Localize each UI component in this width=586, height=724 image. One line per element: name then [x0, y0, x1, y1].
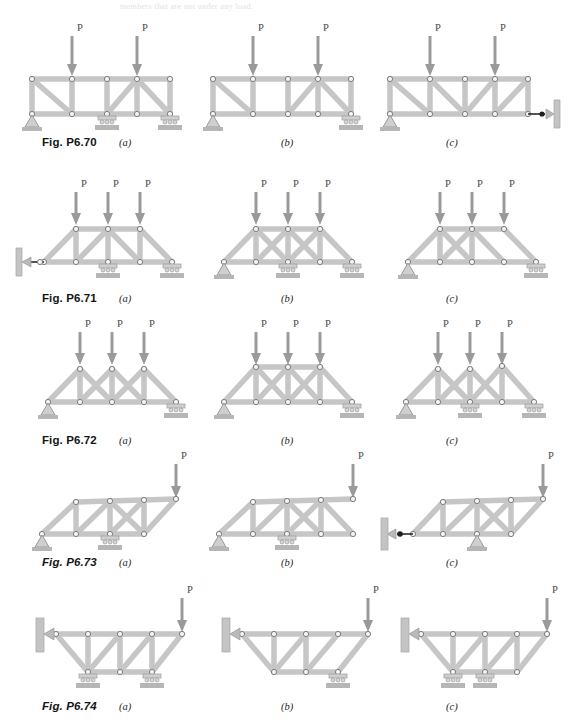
load-label: P: [507, 318, 513, 329]
support-roller: [98, 536, 122, 550]
panel-letter-a: (a): [119, 701, 131, 712]
load-arrow: [135, 192, 145, 225]
load-label: P: [113, 178, 119, 189]
load-arrow: [313, 36, 323, 76]
load-arrows: [71, 192, 145, 225]
panel-letter-a: (a): [119, 557, 131, 568]
truss-p6-72-a: P P P: [24, 326, 214, 426]
truss-members: [390, 79, 528, 114]
load-label: P: [475, 318, 481, 329]
load-arrow: [363, 598, 373, 632]
support-pin: [467, 535, 487, 551]
load-label: P: [552, 584, 558, 595]
truss-p6-73-b: P: [205, 462, 385, 557]
support-roller: [326, 674, 350, 688]
load-label: P: [373, 584, 379, 595]
truss-p6-73-a: P: [28, 462, 208, 557]
load-arrow: [283, 192, 293, 225]
panel-letter-c: (c): [446, 435, 458, 446]
support-roller: [158, 116, 182, 130]
truss-p6-70-c: P P: [382, 24, 572, 136]
truss-members: [408, 229, 536, 262]
panel-letter-c: (c): [446, 701, 458, 712]
load-label: P: [258, 22, 264, 33]
load-label: P: [445, 178, 451, 189]
support-roller: [164, 404, 188, 418]
support-roller: [276, 264, 300, 278]
figure-label-p6-73: Fig. P6.73: [42, 556, 97, 568]
load-arrows: [248, 36, 323, 76]
load-arrow: [71, 192, 81, 225]
support-roller: [160, 264, 184, 278]
panel-letter-b: (b): [281, 701, 293, 712]
load-arrow: [315, 332, 325, 365]
panel-letter-c: (c): [446, 293, 458, 304]
truss-p6-74-a: P: [22, 596, 212, 696]
support-pin: [209, 535, 229, 551]
panel-letter-b: (b): [281, 435, 293, 446]
support-wall: [36, 618, 54, 652]
support-wall: [222, 618, 240, 652]
support-pin: [22, 115, 42, 131]
truss-members: [224, 367, 352, 402]
load-arrow: [348, 464, 358, 498]
truss-p6-72-c: P P P: [382, 326, 572, 426]
panel-letter-a: (a): [119, 293, 131, 304]
load-label: P: [443, 318, 449, 329]
load-arrow: [75, 332, 85, 365]
support-pin: [214, 403, 234, 419]
truss-p6-72-b: P P P: [198, 326, 388, 426]
panel-letter-c: (c): [446, 557, 458, 568]
support-pin: [214, 263, 234, 279]
figure-label-p6-70: Fig. P6.70: [42, 136, 97, 148]
support-wall-link: [381, 518, 413, 550]
load-label: P: [500, 22, 506, 33]
panel-letter-b: (b): [281, 137, 293, 148]
support-pin: [32, 535, 52, 551]
load-arrow: [542, 598, 552, 632]
load-label: P: [477, 178, 483, 189]
support-roller: [458, 404, 482, 418]
load-arrow: [433, 332, 443, 365]
load-label: P: [435, 22, 441, 33]
support-pin: [398, 263, 418, 279]
truss-p6-73-c: P: [375, 462, 575, 557]
truss-members: [421, 634, 547, 672]
load-label: P: [145, 178, 151, 189]
load-arrows: [251, 192, 325, 225]
support-roller: [524, 264, 548, 278]
panel-letter-b: (b): [281, 557, 293, 568]
support-roller: [339, 116, 363, 130]
load-arrow: [67, 36, 77, 76]
load-label: P: [323, 22, 329, 33]
load-label: P: [85, 318, 91, 329]
load-arrow: [251, 332, 261, 365]
load-label: P: [261, 178, 267, 189]
truss-p6-74-b: P: [208, 596, 398, 696]
truss-p6-70-a: P P: [24, 24, 199, 136]
load-arrow: [139, 332, 149, 365]
load-label: P: [261, 318, 267, 329]
support-roller: [76, 674, 100, 688]
load-label: P: [358, 450, 364, 461]
support-pin: [380, 115, 400, 131]
support-roller: [441, 674, 465, 688]
load-arrow: [490, 36, 500, 76]
load-arrow: [467, 192, 477, 225]
load-label: P: [149, 318, 155, 329]
support-roller: [522, 404, 546, 418]
support-roller: [95, 116, 119, 130]
support-wall: [401, 618, 419, 652]
figure-label-p6-74: Fig. P6.74: [42, 700, 97, 712]
panel-letter-b: (b): [281, 293, 293, 304]
truss-members: [42, 499, 176, 534]
panel-letter-a: (a): [119, 435, 131, 446]
load-arrow: [499, 192, 509, 225]
support-wall-link: [528, 100, 560, 128]
load-label: P: [548, 450, 554, 461]
page-ghost-text: members that are not under any load.: [120, 2, 460, 11]
load-label: P: [117, 318, 123, 329]
truss-members: [56, 634, 182, 672]
load-arrow: [283, 332, 293, 365]
support-pin: [203, 115, 223, 131]
